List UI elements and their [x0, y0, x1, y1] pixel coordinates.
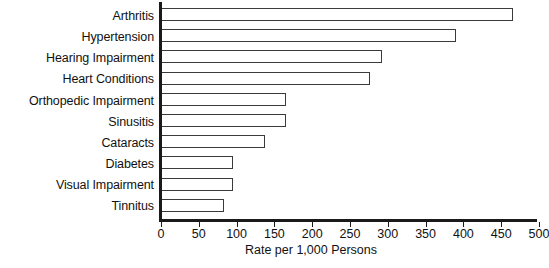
x-tick-label-250: 250 [340, 227, 361, 241]
bar-visual-impairment [161, 178, 233, 191]
category-label-orthopedic-impairment: Orthopedic Impairment [29, 94, 154, 108]
x-tick-label-500: 500 [529, 227, 549, 241]
bar-hypertension [161, 29, 456, 42]
x-tick-label-100: 100 [226, 227, 247, 241]
bar-diabetes [161, 156, 233, 169]
x-axis-line [159, 219, 537, 222]
x-tick-label-150: 150 [264, 227, 285, 241]
bar-cataracts [161, 135, 265, 148]
x-tick-label-400: 400 [453, 227, 474, 241]
x-tick-label-50: 50 [192, 227, 206, 241]
category-label-cataracts: Cataracts [101, 136, 154, 150]
bar-sinusitis [161, 114, 286, 127]
category-label-sinusitis: Sinusitis [108, 115, 154, 129]
category-label-heart-conditions: Heart Conditions [62, 72, 154, 86]
x-tick-label-300: 300 [377, 227, 398, 241]
bar-hearing-impairment [161, 50, 382, 63]
bar-tinnitus [161, 199, 224, 212]
bar-orthopedic-impairment [161, 93, 286, 106]
y-axis-line [159, 2, 162, 222]
x-tick-label-0: 0 [158, 227, 165, 241]
category-label-hypertension: Hypertension [82, 30, 154, 44]
x-tick-label-200: 200 [302, 227, 323, 241]
plot-area [161, 0, 539, 221]
category-label-visual-impairment: Visual Impairment [56, 178, 154, 192]
x-tick-label-350: 350 [415, 227, 436, 241]
category-label-arthritis: Arthritis [113, 9, 154, 23]
bar-arthritis [161, 8, 513, 21]
x-axis-title: Rate per 1,000 Persons [161, 243, 461, 257]
category-label-tinnitus: Tinnitus [111, 199, 154, 213]
bar-heart-conditions [161, 72, 370, 85]
category-label-diabetes: Diabetes [105, 157, 154, 171]
category-label-hearing-impairment: Hearing Impairment [46, 51, 154, 65]
category-axis-labels: Arthritis Hypertension Hearing Impairmen… [0, 0, 158, 220]
x-tick-label-450: 450 [491, 227, 512, 241]
